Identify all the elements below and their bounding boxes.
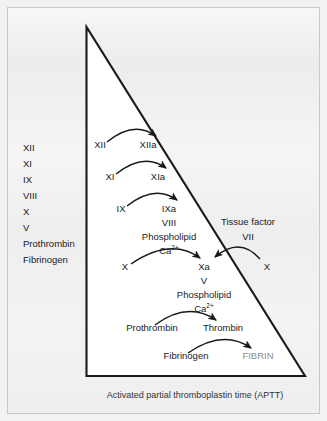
intrinsic-pathway-triangle xyxy=(87,27,306,376)
node-v-cofactor: V xyxy=(201,276,207,286)
node-xi: XI xyxy=(106,172,115,182)
node-x-extrinsic: X xyxy=(264,262,270,272)
node-fibrinogen: Fibrinogen xyxy=(164,351,209,361)
node-calcium-common: Ca2+ xyxy=(194,304,214,314)
node-fibrin: FIBRIN xyxy=(242,351,273,361)
figure-frame: XII XI IX VIII X V Prothrombin Fibrinoge… xyxy=(7,7,320,414)
figure-root: XII XI IX VIII X V Prothrombin Fibrinoge… xyxy=(0,0,327,421)
calcium-symbol-intrinsic: Ca xyxy=(159,245,171,256)
node-viii-cofactor: VIII xyxy=(162,218,176,228)
factor-list-item-ix: IX xyxy=(23,175,32,185)
label-tissue-factor: Tissue factor xyxy=(221,217,275,227)
node-thrombin: Thrombin xyxy=(203,323,243,333)
node-xiia: XIIa xyxy=(140,140,157,150)
node-xia: XIa xyxy=(151,172,165,182)
factor-list-item-prothrombin: Prothrombin xyxy=(23,239,75,249)
node-ixa: IXa xyxy=(162,204,176,214)
node-prothrombin: Prothrombin xyxy=(126,323,178,333)
factor-list-item-fibrinogen: Fibrinogen xyxy=(23,255,68,265)
calcium-charge-intrinsic: 2+ xyxy=(171,244,178,251)
figure-caption: Activated partial thromboplastin time (A… xyxy=(107,391,284,400)
node-vii: VII xyxy=(242,232,254,242)
node-calcium-intrinsic: Ca2+ xyxy=(159,246,179,256)
node-xii: XII xyxy=(94,140,106,150)
node-xa: Xa xyxy=(198,262,210,272)
factor-list-item-x: X xyxy=(23,207,29,217)
factor-list-item-viii: VIII xyxy=(23,191,37,201)
calcium-charge-common: 2+ xyxy=(206,302,213,309)
factor-list-item-xi: XI xyxy=(23,159,32,169)
node-phospholipid-intrinsic: Phospholipid xyxy=(142,232,196,242)
node-phospholipid-common: Phospholipid xyxy=(177,290,231,300)
node-ix: IX xyxy=(117,204,126,214)
factor-list-item-xii: XII xyxy=(23,143,35,153)
node-x-intrinsic: X xyxy=(122,262,128,272)
factor-list-item-v: V xyxy=(23,223,29,233)
calcium-symbol-common: Ca xyxy=(194,303,206,314)
